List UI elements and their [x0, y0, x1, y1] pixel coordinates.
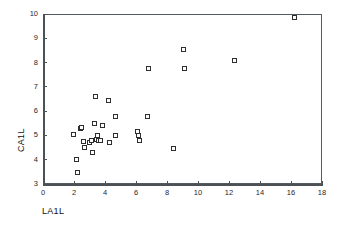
y-tick-label: 7: [21, 83, 38, 91]
y-tick-label: 6: [21, 107, 38, 115]
x-tick-mark: [136, 181, 137, 184]
x-axis-line: [43, 184, 323, 186]
x-tick-mark: [260, 181, 261, 184]
y-tick-label: 4: [21, 156, 38, 164]
plot-area-frame: [43, 14, 322, 184]
x-tick-mark: [105, 181, 106, 184]
x-tick-label: 10: [188, 189, 208, 197]
y-tick-mark: [44, 62, 47, 63]
y-tick-mark: [44, 111, 47, 112]
y-tick-label: 3: [21, 180, 38, 188]
x-tick-label: 18: [312, 189, 332, 197]
x-tick-label: 2: [64, 189, 84, 197]
y-tick-mark: [44, 159, 47, 160]
x-tick-label: 0: [33, 189, 53, 197]
y-tick-mark: [44, 14, 47, 15]
y-axis-title: CA1L: [16, 128, 26, 152]
x-tick-label: 14: [250, 189, 270, 197]
y-tick-mark: [44, 86, 47, 87]
scatter-plot-figure: 024681012141618 345678910 CA1L LA1L: [0, 0, 344, 237]
y-tick-label: 8: [21, 59, 38, 67]
y-tick-mark: [44, 38, 47, 39]
x-tick-label: 16: [281, 189, 301, 197]
x-axis-title: LA1L: [42, 206, 64, 216]
y-tick-mark: [44, 184, 47, 185]
x-tick-label: 4: [95, 189, 115, 197]
x-tick-mark: [167, 181, 168, 184]
x-tick-mark: [198, 181, 199, 184]
y-tick-mark: [44, 135, 47, 136]
x-tick-mark: [291, 181, 292, 184]
x-tick-mark: [229, 181, 230, 184]
x-tick-label: 6: [126, 189, 146, 197]
y-tick-label: 10: [21, 10, 38, 18]
y-tick-label: 9: [21, 34, 38, 42]
x-tick-mark: [74, 181, 75, 184]
x-tick-label: 12: [219, 189, 239, 197]
x-tick-label: 8: [157, 189, 177, 197]
x-tick-mark: [322, 181, 323, 184]
